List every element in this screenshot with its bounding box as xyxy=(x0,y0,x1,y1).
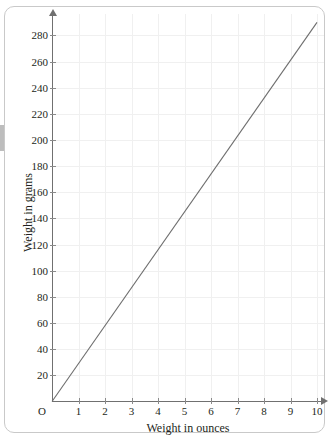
chart-page: 1234567891020406080100120140160180200220… xyxy=(0,0,335,445)
x-axis-title: Weight in ounces xyxy=(52,421,324,436)
series-line-ounces-to-grams xyxy=(52,22,317,401)
series-line-layer xyxy=(0,0,335,445)
y-axis-title: Weight in grams xyxy=(21,133,36,293)
